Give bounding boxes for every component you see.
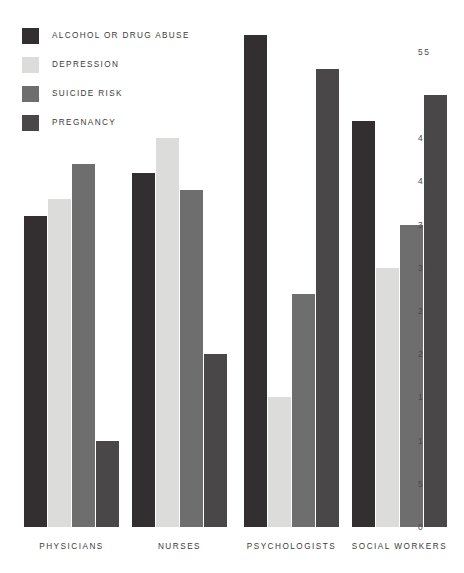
x-axis: PHYSICIANSNURSESPSYCHOLOGISTSSOCIAL WORK… bbox=[0, 0, 464, 573]
bar-chart: ALCOHOL OR DRUG ABUSEDEPRESSIONSUICIDE R… bbox=[0, 0, 464, 573]
x-axis-category-label: PHYSICIANS bbox=[39, 543, 104, 551]
x-axis-category-label: SOCIAL WORKERS bbox=[352, 543, 447, 551]
x-axis-category-label: PSYCHOLOGISTS bbox=[247, 543, 337, 551]
x-axis-category-label: NURSES bbox=[158, 543, 201, 551]
